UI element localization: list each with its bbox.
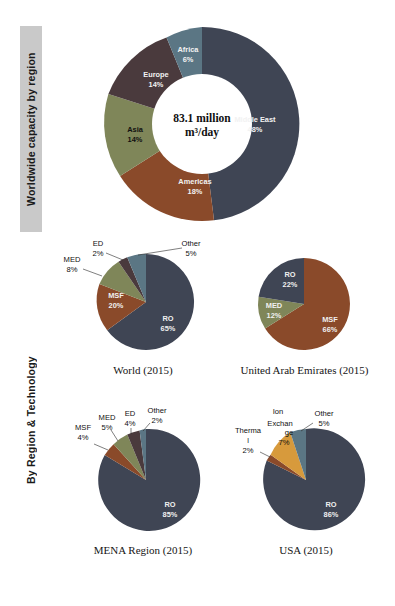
uae-label-ro-name: RO (284, 270, 295, 279)
mena-label-msf-pct: 4% (78, 433, 89, 442)
world-pie-svg: RO 65% MSF 20% MED 8% ED 2% Other 5% (58, 236, 228, 362)
world-label-ro-name: RO (162, 314, 173, 323)
donut-svg: 83.1 million m³/day Middle East 48% Amer… (92, 14, 312, 234)
world-label-ro-pct: 65% (161, 324, 176, 333)
donut-label-africa-name: Africa (178, 45, 200, 54)
section-label-worldwide-text: Worldwide capacity by region (25, 52, 37, 206)
mena-label-ro-name: RO (164, 500, 175, 509)
uae-chart-caption: United Arab Emirates (2015) (222, 364, 387, 376)
usa-2015-pie-chart: RO 86% Therma l 2% Ion Exchan ge 7% Othe… (222, 404, 390, 562)
uae-label-msf-pct: 66% (323, 325, 338, 334)
usa-label-ro-name: RO (325, 500, 336, 509)
usa-label-ion-pct: 7% (279, 438, 290, 447)
usa-label-ro-pct: 86% (324, 510, 339, 519)
world-leader-med (83, 269, 102, 276)
donut-label-asia-name: Asia (127, 125, 144, 134)
uae-label-med-name: MED (266, 301, 283, 310)
mena-label-msf-name: MSF (75, 423, 91, 432)
world-2015-pie-chart: RO 65% MSF 20% MED 8% ED 2% Other 5% Wor… (58, 236, 228, 386)
uae-label-med-pct: 12% (267, 311, 282, 320)
world-leader-other (138, 248, 182, 255)
usa-label-other-pct: 5% (319, 419, 330, 428)
world-label-other-name: Other (182, 239, 201, 248)
donut-label-americas-pct: 18% (188, 187, 203, 196)
mena-label-med-pct: 5% (102, 423, 113, 432)
mena-leader-msf (94, 444, 108, 450)
usa-label-thermal-name-2: l (247, 436, 249, 445)
donut-label-middle-east-pct: 48% (248, 125, 263, 134)
mena-label-other-name: Other (148, 406, 167, 415)
mena-label-ed-name: ED (125, 409, 136, 418)
donut-label-middle-east-name: Middle East (234, 115, 276, 124)
mena-label-ed-pct: 4% (125, 419, 136, 428)
world-label-msf-name: MSF (108, 291, 124, 300)
donut-center-capacity: 83.1 million (173, 112, 231, 124)
mena-label-ro-pct: 85% (163, 510, 178, 519)
section-label-worldwide-capacity: Worldwide capacity by region (20, 26, 42, 232)
donut-label-africa-pct: 6% (183, 55, 194, 64)
usa-label-thermal-name-1: Therma (235, 426, 262, 435)
donut-center-units: m³/day (185, 126, 219, 139)
world-label-other-pct: 5% (186, 249, 197, 258)
mena-2015-pie-chart: RO 85% MSF 4% MED 5% ED 4% Other 2% MENA… (58, 404, 228, 562)
donut-label-europe-pct: 14% (149, 80, 164, 89)
world-leader-ed (106, 253, 123, 260)
world-chart-caption: World (2015) (58, 364, 228, 376)
mena-label-med-name: MED (99, 413, 116, 422)
section-label-region-tech-text: By Region & Technology (25, 356, 37, 484)
uae-pie-svg: MSF 66% MED 12% RO 22% (222, 246, 387, 362)
uae-label-msf-name: MSF (322, 315, 338, 324)
world-label-ed-pct: 2% (93, 249, 104, 258)
donut-label-europe-name: Europe (143, 70, 168, 79)
uae-label-ro-pct: 22% (283, 280, 298, 289)
usa-label-thermal-pct: 2% (243, 446, 254, 455)
usa-chart-caption: USA (2015) (222, 544, 390, 556)
usa-pie-svg: RO 86% Therma l 2% Ion Exchan ge 7% Othe… (222, 404, 390, 540)
usa-label-ion-name-3: ge (285, 428, 293, 437)
world-label-ed-name: ED (93, 239, 104, 248)
usa-label-ion-name-2: Exchan (267, 419, 292, 428)
usa-leader-thermal (260, 452, 270, 457)
donut-label-americas-name: Americas (178, 177, 211, 186)
world-label-msf-pct: 20% (109, 301, 124, 310)
world-label-med-pct: 8% (67, 265, 78, 274)
mena-pie-svg: RO 85% MSF 4% MED 5% ED 4% Other 2% (58, 404, 228, 540)
world-label-med-name: MED (64, 255, 81, 264)
donut-label-asia-pct: 14% (128, 135, 143, 144)
section-label-by-region-technology: By Region & Technology (20, 330, 42, 510)
mena-slice-ro[interactable] (98, 429, 200, 531)
usa-label-other-name: Other (315, 409, 334, 418)
worldwide-capacity-donut-chart: 83.1 million m³/day Middle East 48% Amer… (92, 14, 312, 234)
uae-2015-pie-chart: MSF 66% MED 12% RO 22% United Arab Emira… (222, 246, 387, 386)
usa-label-ion-name-1: Ion (273, 407, 284, 416)
donut-hole (152, 74, 252, 174)
mena-label-other-pct: 2% (152, 416, 163, 425)
mena-chart-caption: MENA Region (2015) (58, 544, 228, 556)
